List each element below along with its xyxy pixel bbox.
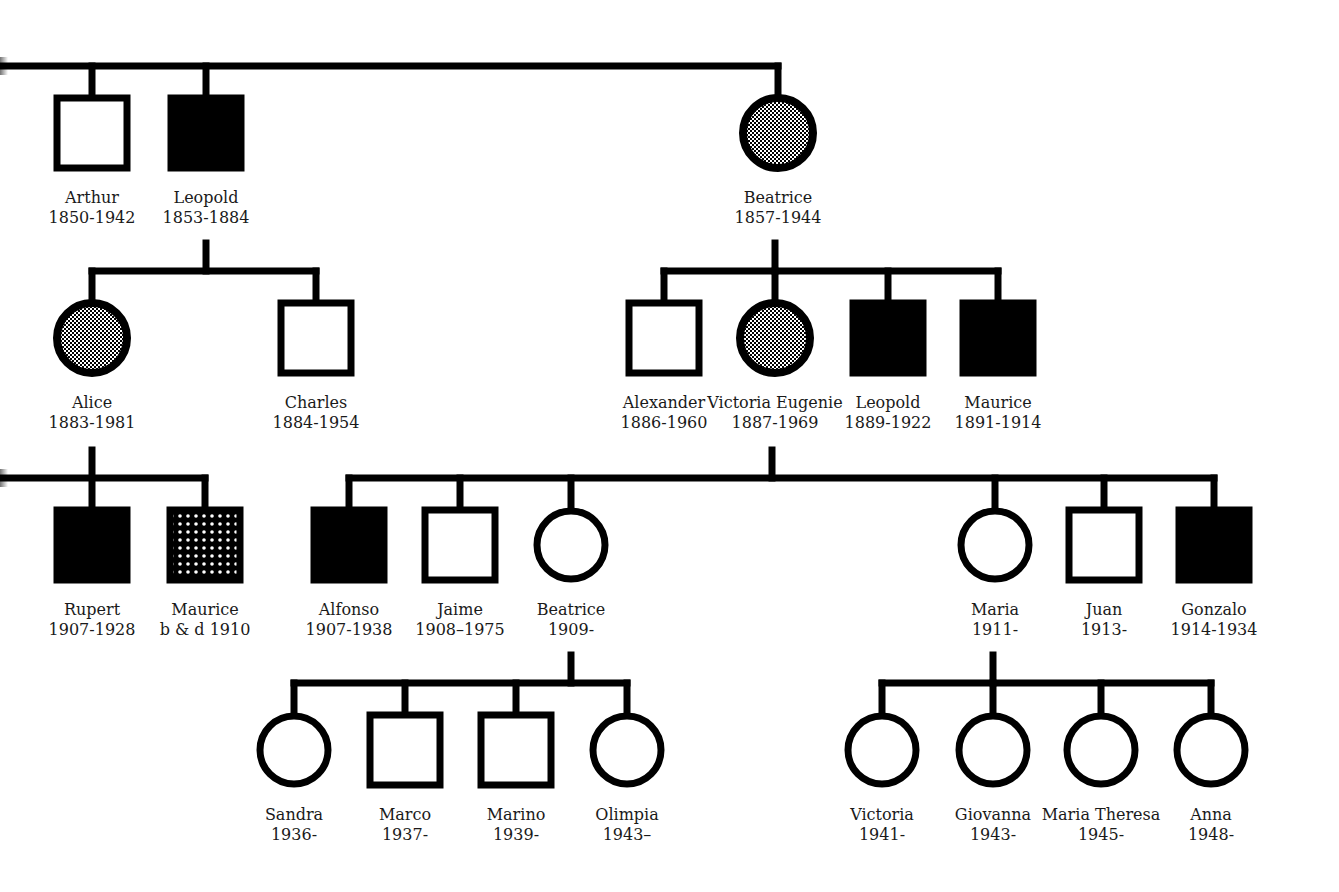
person-dates: 1891-1914 [955,413,1042,433]
male-square-unaffected-icon [425,510,495,580]
person-name: Marino [487,805,546,825]
male-square-unaffected-icon [629,303,699,373]
person-name: Juan [1081,600,1127,620]
person-name: Charles [273,393,360,413]
person-name: Beatrice [735,188,822,208]
person-label-rupert: Rupert1907-1928 [49,600,136,640]
person-label-sandra: Sandra1936- [265,805,323,845]
person-label-anna: Anna1948- [1188,805,1234,845]
person-label-beatrice1: Beatrice1857-1944 [735,188,822,228]
person-name: Leopold [163,188,250,208]
person-name: Maria Theresa [1042,805,1161,825]
person-dates: 1945- [1042,825,1161,845]
page-edge-shadow [0,57,8,75]
person-dates: 1943– [595,825,658,845]
person-label-gonzalo: Gonzalo1914-1934 [1171,600,1258,640]
person-label-arthur: Arthur1850-1942 [49,188,136,228]
female-circle-unaffected-icon [537,511,605,579]
person-dates: 1850-1942 [49,208,136,228]
male-square-affected-icon [1179,510,1249,580]
person-dates: 1941- [850,825,914,845]
person-dates: 1886-1960 [621,413,708,433]
person-label-alice: Alice1883-1981 [49,393,136,433]
person-name: Anna [1188,805,1234,825]
person-dates: 1909- [537,620,605,640]
person-dates: 1937- [379,825,431,845]
person-label-maurice2: Mauriceb & d 1910 [160,600,251,640]
male-square-unaffected-icon [370,715,440,785]
person-name: Giovanna [955,805,1031,825]
person-dates: 1939- [487,825,546,845]
male-square-affected-icon [57,510,127,580]
person-dates: 1907-1938 [306,620,393,640]
female-circle-unaffected-icon [1067,716,1135,784]
person-dates: 1948- [1188,825,1234,845]
female-circle-unaffected-icon [961,511,1029,579]
person-label-maurice1: Maurice1891-1914 [955,393,1042,433]
person-name: Maurice [955,393,1042,413]
person-dates: 1943- [955,825,1031,845]
person-name: Sandra [265,805,323,825]
person-name: Maria [971,600,1019,620]
person-dates: 1884-1954 [273,413,360,433]
person-label-leopold2: Leopold1889-1922 [845,393,932,433]
person-dates: 1887-1969 [707,413,842,433]
person-dates: 1857-1944 [735,208,822,228]
person-label-victoria2: Victoria1941- [850,805,914,845]
pedigree-diagram: Arthur1850-1942Leopold1853-1884Beatrice1… [0,0,1339,892]
person-dates: b & d 1910 [160,620,251,640]
female-circle-carrier-icon [740,303,810,373]
person-dates: 1911- [971,620,1019,640]
male-square-unaffected-icon [481,715,551,785]
female-circle-unaffected-icon [959,716,1027,784]
person-name: Gonzalo [1171,600,1258,620]
female-circle-unaffected-icon [848,716,916,784]
male-square-affected-icon [171,98,241,168]
person-name: Leopold [845,393,932,413]
person-dates: 1914-1934 [1171,620,1258,640]
person-name: Alexander [621,393,708,413]
person-label-alexander: Alexander1886-1960 [621,393,708,433]
person-dates: 1889-1922 [845,413,932,433]
female-circle-unaffected-icon [260,716,328,784]
male-square-unaffected-icon [1069,510,1139,580]
male-square-affected-icon [314,510,384,580]
person-name: Alice [49,393,136,413]
female-circle-unaffected-icon [1177,716,1245,784]
person-label-marco: Marco1937- [379,805,431,845]
male-square-affected-icon [963,303,1033,373]
person-name: Alfonso [306,600,393,620]
person-dates: 1913- [1081,620,1127,640]
female-circle-unaffected-icon [593,716,661,784]
person-name: Rupert [49,600,136,620]
person-label-olimpia: Olimpia1943– [595,805,658,845]
female-circle-carrier-icon [743,98,813,168]
person-dates: 1883-1981 [49,413,136,433]
male-square-affected-icon [853,303,923,373]
male-square-unaffected-icon [57,98,127,168]
person-name: Jaime [415,600,504,620]
person-label-victoria_eugenie: Victoria Eugenie1887-1969 [707,393,842,433]
person-name: Beatrice [537,600,605,620]
person-name: Victoria Eugenie [707,393,842,413]
person-dates: 1853-1884 [163,208,250,228]
person-label-beatrice2: Beatrice1909- [537,600,605,640]
person-label-marino: Marino1939- [487,805,546,845]
person-label-maria_theresa: Maria Theresa1945- [1042,805,1161,845]
male-square-dotted-icon [170,510,240,580]
person-label-giovanna: Giovanna1943- [955,805,1031,845]
male-square-unaffected-icon [281,303,351,373]
person-label-alfonso: Alfonso1907-1938 [306,600,393,640]
person-name: Maurice [160,600,251,620]
person-dates: 1908–1975 [415,620,504,640]
page-edge-shadow [0,469,8,487]
person-name: Arthur [49,188,136,208]
person-name: Olimpia [595,805,658,825]
pedigree-lines-and-symbols [0,0,1339,892]
person-label-juan: Juan1913- [1081,600,1127,640]
person-label-leopold1: Leopold1853-1884 [163,188,250,228]
person-label-charles: Charles1884-1954 [273,393,360,433]
person-name: Victoria [850,805,914,825]
person-label-jaime: Jaime1908–1975 [415,600,504,640]
person-label-maria: Maria1911- [971,600,1019,640]
